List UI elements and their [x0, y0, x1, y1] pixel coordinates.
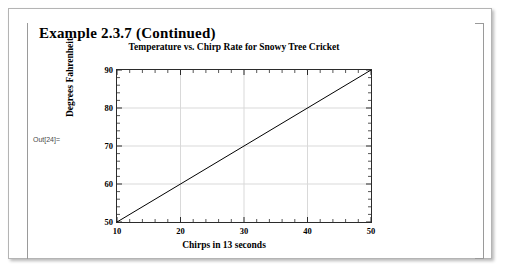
plot-frame [116, 69, 372, 223]
y-tick-label: 80 [91, 103, 113, 113]
y-tick-label: 90 [91, 65, 113, 75]
notebook-window: Example 2.3.7 (Continued) Out[24]= Tempe… [8, 8, 492, 259]
plot-svg [117, 70, 371, 222]
chart-title: Temperature vs. Chirp Rate for Snowy Tre… [69, 42, 399, 52]
x-tick-label: 20 [168, 226, 194, 236]
chart-container: Temperature vs. Chirp Rate for Snowy Tre… [69, 42, 399, 257]
y-axis-label: Degrees Fahrenheit [65, 103, 75, 117]
cell-bracket-right[interactable] [475, 23, 484, 259]
y-tick-label: 60 [91, 179, 113, 189]
output-label: Out[24]= [33, 136, 60, 143]
x-tick-label: 10 [104, 226, 130, 236]
x-tick-label: 50 [358, 226, 384, 236]
x-tick-label: 30 [231, 226, 257, 236]
x-axis-label: Chirps in 13 seconds [69, 240, 379, 250]
y-tick-label-group: 5060708090 [87, 69, 113, 223]
screenshot-root: Example 2.3.7 (Continued) Out[24]= Tempe… [0, 0, 506, 272]
y-tick-label: 70 [91, 141, 113, 151]
x-tick-label-group: 1020304050 [116, 225, 372, 239]
x-tick-label: 40 [295, 226, 321, 236]
